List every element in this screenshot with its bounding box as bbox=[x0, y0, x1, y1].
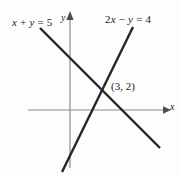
line-x-plus-y-equals-5 bbox=[40, 28, 160, 148]
line-2x-minus-y-equals-4 bbox=[62, 27, 133, 172]
graph-figure: x + y = 5 2x − y = 4 y x (3, 2) bbox=[0, 0, 181, 176]
y-axis-arrowhead bbox=[66, 11, 73, 20]
line2-var1: x bbox=[111, 13, 116, 25]
intersection-point-label: (3, 2) bbox=[111, 80, 135, 92]
y-axis-label: y bbox=[61, 12, 65, 23]
line1-equals-rhs: = 5 bbox=[37, 16, 52, 28]
line1-operator: + bbox=[20, 16, 26, 28]
line-label-x-plus-y-equals-5: x + y = 5 bbox=[12, 16, 53, 28]
line-label-2x-minus-y-equals-4: 2x − y = 4 bbox=[105, 13, 151, 25]
line2-var2: y bbox=[128, 13, 133, 25]
line1-var1: x bbox=[12, 16, 17, 28]
line2-equals-rhs: = 4 bbox=[136, 13, 151, 25]
line2-operator: − bbox=[119, 13, 125, 25]
x-axis-label: x bbox=[170, 101, 174, 112]
line1-var2: y bbox=[29, 16, 34, 28]
